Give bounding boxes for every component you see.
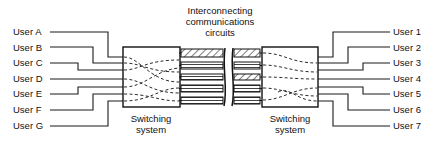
circuit-break-mark xyxy=(224,48,233,106)
right-user-label-4: User 4 xyxy=(393,73,421,84)
title-line-2: communications xyxy=(186,16,255,27)
trunk-4-left-segment xyxy=(181,85,223,92)
right-user-label-7: User 7 xyxy=(393,120,421,131)
left-switching-system-label-2: system xyxy=(136,124,166,135)
trunk-2-left-segment xyxy=(181,62,223,69)
wire-user-f xyxy=(50,94,123,110)
right-user-labels: User 1 User 2 User 3 User 4 User 5 User … xyxy=(393,26,421,131)
right-user-label-2: User 2 xyxy=(393,42,421,53)
left-user-label-e: User E xyxy=(13,88,42,99)
wire-user-3 xyxy=(318,63,390,70)
trunk-3-left-segment xyxy=(181,74,223,80)
left-switching-system-label-1: Switching xyxy=(131,113,172,124)
network-diagram: Interconnecting communications circuits … xyxy=(0,0,440,145)
left-user-wires xyxy=(50,32,123,126)
wire-user-1 xyxy=(318,32,390,57)
trunk-1-left-segment xyxy=(181,49,223,57)
break-line-left xyxy=(224,48,225,106)
trunk-3-right-segment xyxy=(234,74,260,80)
diagram-title: Interconnecting communications circuits xyxy=(186,5,255,38)
wire-user-6 xyxy=(318,94,390,110)
left-user-label-g: User G xyxy=(13,120,43,131)
trunk-5-left-segment xyxy=(181,97,223,104)
figure-canvas: Interconnecting communications circuits … xyxy=(0,0,440,145)
right-user-label-6: User 6 xyxy=(393,104,421,115)
trunk-1-right-segment xyxy=(234,49,260,57)
wire-user-c xyxy=(50,63,123,70)
right-switching-system-label-1: Switching xyxy=(270,113,311,124)
wire-user-b xyxy=(50,47,123,63)
wire-user-7 xyxy=(318,101,390,126)
wire-user-2 xyxy=(318,47,390,63)
left-user-labels: User A User B User C User D User E User … xyxy=(13,26,43,131)
left-user-label-a: User A xyxy=(13,26,42,37)
left-switching-system[interactable]: Switching system xyxy=(123,47,180,135)
left-user-label-f: User F xyxy=(13,104,42,115)
right-switching-system-label-2: system xyxy=(275,124,305,135)
right-user-wires xyxy=(318,32,390,126)
interconnecting-circuits-left xyxy=(179,49,223,104)
break-line-right xyxy=(232,48,233,106)
wire-user-5 xyxy=(318,87,390,94)
trunk-5-right-segment xyxy=(234,97,260,104)
trunk-2-right-segment xyxy=(234,62,260,69)
trunk-4-right-segment xyxy=(234,85,260,92)
left-switching-system-box[interactable] xyxy=(123,47,180,107)
left-user-label-d: User D xyxy=(13,73,43,84)
right-user-label-3: User 3 xyxy=(393,57,421,68)
left-user-label-c: User C xyxy=(13,57,43,68)
left-user-label-b: User B xyxy=(13,42,42,53)
title-line-3: circuits xyxy=(205,27,235,38)
right-user-label-1: User 1 xyxy=(393,26,421,37)
interconnecting-circuits-right xyxy=(234,49,262,104)
title-line-1: Interconnecting xyxy=(188,5,253,16)
right-switching-system[interactable]: Switching system xyxy=(262,47,318,135)
wire-user-e xyxy=(50,87,123,94)
right-user-label-5: User 5 xyxy=(393,88,421,99)
wire-user-g xyxy=(50,101,123,126)
wire-user-a xyxy=(50,32,123,57)
